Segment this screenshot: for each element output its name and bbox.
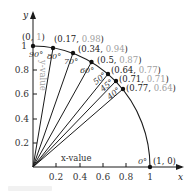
x-ticks [56, 163, 126, 167]
point-45 [114, 79, 118, 83]
point-40 [121, 87, 125, 91]
coord-label-40: (0.77, 0.64) [126, 83, 176, 93]
coord-label-70: (0.34, 0.94) [78, 44, 128, 54]
point-0 [148, 165, 152, 169]
svg-text:0.4: 0.4 [15, 114, 30, 124]
faint-caption [8, 186, 52, 191]
coord-label-80: (0.17, 0.98) [54, 34, 104, 44]
coord-label-0: (1, 0) [153, 156, 176, 166]
coord-label-60: (0.5, 0.87) [97, 55, 142, 65]
y-axis-arrow-icon [30, 11, 36, 19]
coord-label-90: (0, 1) [22, 32, 45, 42]
point-60 [89, 60, 93, 64]
point-70 [71, 51, 75, 55]
angle-label-80: 80° [47, 52, 61, 61]
svg-text:0.6: 0.6 [96, 172, 111, 182]
svg-text:1: 1 [21, 41, 27, 51]
angle-label-0: 0° [138, 157, 147, 166]
point-90 [31, 44, 35, 48]
y-tick-labels: 0.2 0.4 0.6 0.8 1 [15, 41, 30, 148]
svg-text:0.4: 0.4 [73, 172, 88, 182]
point-80 [51, 46, 55, 50]
svg-text:1: 1 [147, 172, 153, 182]
svg-text:0.8: 0.8 [119, 172, 134, 182]
x-axis-name: x [178, 172, 183, 182]
angle-label-60: 60° [80, 66, 94, 75]
svg-text:0.2: 0.2 [49, 172, 63, 182]
x-value-label: x-value [61, 153, 92, 163]
svg-text:0.6: 0.6 [15, 89, 30, 99]
unit-circle-diagram: x y 0.2 0.4 0.6 0.8 1 0.2 0.4 0.6 0.8 1 … [0, 0, 190, 196]
angle-label-90: 90° [29, 50, 43, 59]
x-tick-labels: 0.2 0.4 0.6 0.8 1 [49, 172, 153, 182]
y-ticks [33, 70, 37, 143]
y-axis-name: y [22, 10, 29, 20]
x-axis-arrow-icon [176, 164, 184, 170]
svg-text:0.8: 0.8 [15, 65, 30, 75]
angle-label-70: 70° [64, 57, 78, 66]
svg-text:0.2: 0.2 [15, 138, 29, 148]
